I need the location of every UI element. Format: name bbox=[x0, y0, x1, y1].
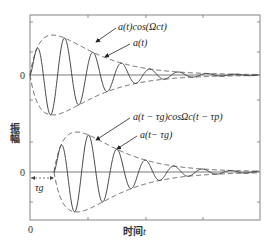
label-upper-envelope: a(t) bbox=[133, 37, 148, 49]
label-lower-envelope: a(t− τg) bbox=[140, 129, 173, 141]
tau-g-arrowhead-left bbox=[31, 176, 35, 180]
upper-carrier-curve bbox=[30, 38, 259, 115]
lower-zero-label: 0 bbox=[20, 167, 25, 178]
x-axis-label: 时间t bbox=[123, 225, 146, 237]
upper-envelope-bottom bbox=[30, 75, 259, 115]
label-upper-carrier: a(t)cos(Ωct) bbox=[118, 21, 168, 33]
y-axis-label: 振幅 bbox=[9, 122, 20, 144]
label-lower-carrier: a(t − τg)cosΩc(t − τp) bbox=[133, 111, 223, 123]
x-origin-label: 0 bbox=[28, 224, 33, 235]
x-axis-label-var: t bbox=[143, 226, 146, 237]
arrow-lower-carrier bbox=[96, 118, 130, 140]
arrow-upper-envelope bbox=[105, 44, 130, 57]
arrow-lower-envelope bbox=[117, 136, 137, 149]
x-axis-label-text: 时间 bbox=[123, 225, 143, 237]
wave-packet-figure: a(t)cos(Ωct) a(t) a(t − τg)cosΩc(t − τp)… bbox=[0, 0, 270, 248]
label-tau-g: τg bbox=[35, 182, 44, 193]
upper-zero-label: 0 bbox=[20, 70, 25, 81]
arrow-upper-carrier bbox=[96, 28, 116, 42]
tau-g-arrowhead-right bbox=[50, 176, 54, 180]
